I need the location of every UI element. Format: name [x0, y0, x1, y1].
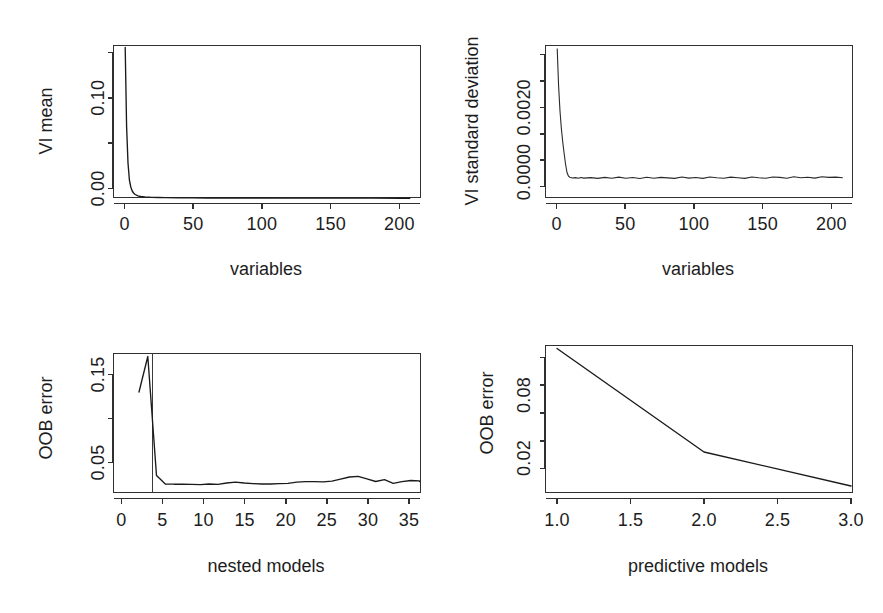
y-tick-label: 0.0020 [514, 79, 534, 135]
oob-nested-curve [139, 357, 420, 485]
oob-predictive-curve [557, 349, 851, 487]
y-axis: 0.08 0.02 [514, 358, 545, 476]
x-axis: 0 50 100 150 200 [546, 204, 852, 235]
figure-canvas: 0.10 0.00 0 50 100 150 200 VI mean varia… [0, 0, 883, 613]
x-tick-label: 3.0 [838, 510, 864, 530]
plot-frame [546, 46, 853, 198]
vi-sd-curve [557, 49, 843, 179]
y-axis-title: VI standard deviation [462, 36, 482, 205]
panel-vi-sd: 0.0020 0.0000 0 50 100 150 200 VI standa… [441, 0, 883, 300]
x-tick-label: 25 [317, 510, 337, 530]
panel-oob-predictive: 0.08 0.02 1.0 1.5 2.0 2.5 3.0 OOB error … [441, 300, 883, 613]
x-tick-label: 2.0 [691, 510, 717, 530]
x-tick-label: 30 [358, 510, 378, 530]
x-tick-label: 20 [275, 510, 295, 530]
y-tick-label: 0.02 [514, 440, 534, 476]
y-axis: 0.0020 0.0000 [514, 55, 545, 201]
y-tick-label: 0.0000 [514, 144, 534, 200]
y-axis-title: VI mean [36, 87, 56, 154]
x-tick-label: 50 [615, 214, 635, 234]
x-tick-label: 50 [183, 214, 203, 234]
y-axis: 0.10 0.00 [88, 53, 113, 207]
x-axis-title: variables [230, 259, 302, 279]
x-tick-label: 0 [116, 510, 126, 530]
x-tick-label: 150 [315, 214, 346, 234]
x-tick-label: 200 [384, 214, 415, 234]
plot-frame [546, 346, 853, 493]
x-axis: 0 5 10 15 20 25 30 35 [114, 499, 420, 531]
plot-frame [114, 46, 421, 198]
x-axis-title: predictive models [628, 556, 768, 576]
x-tick-label: 0 [119, 214, 129, 234]
panel-vi-mean: 0.10 0.00 0 50 100 150 200 VI mean varia… [0, 0, 442, 300]
y-axis: 0.15 0.05 [88, 357, 113, 481]
y-tick-label: 0.15 [88, 357, 108, 393]
x-axis: 0 50 100 150 200 [114, 204, 420, 235]
x-tick-label: 15 [234, 510, 254, 530]
x-tick-label: 10 [193, 510, 213, 530]
vi-mean-curve [125, 48, 410, 199]
x-tick-label: 5 [157, 510, 167, 530]
x-axis-title: nested models [207, 556, 324, 576]
y-tick-label: 0.10 [88, 80, 108, 116]
y-tick-label: 0.08 [514, 377, 534, 413]
x-axis-title: variables [662, 259, 734, 279]
x-tick-label: 1.5 [618, 510, 644, 530]
x-tick-label: 0 [551, 214, 561, 234]
y-axis-title: OOB error [36, 376, 56, 459]
y-tick-label: 0.05 [88, 445, 108, 481]
x-tick-label: 35 [399, 510, 419, 530]
plot-frame [114, 354, 421, 493]
panel-oob-nested: 0.15 0.05 0 5 10 15 20 25 30 35 [0, 300, 442, 613]
x-tick-label: 200 [816, 214, 847, 234]
x-tick-label: 150 [747, 214, 778, 234]
x-tick-label: 1.0 [544, 510, 570, 530]
x-tick-label: 2.5 [765, 510, 791, 530]
y-axis-title: OOB error [477, 371, 497, 454]
x-tick-label: 100 [247, 214, 278, 234]
x-axis: 1.0 1.5 2.0 2.5 3.0 [544, 499, 864, 531]
x-tick-label: 100 [679, 214, 710, 234]
y-tick-label: 0.00 [88, 171, 108, 207]
